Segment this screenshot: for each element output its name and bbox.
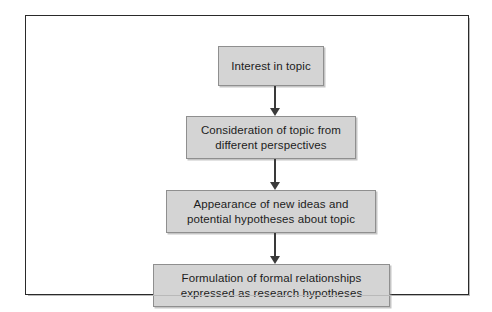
connector-line <box>274 159 276 182</box>
figure-frame-border: Interest in topic Consideration of topic… <box>25 15 469 295</box>
connector-box1-to-box2 <box>270 86 280 116</box>
flow-node-label: Appearance of new ideas and potential hy… <box>181 197 361 226</box>
flow-node-label: Consideration of topic from different pe… <box>195 123 347 152</box>
flow-node-formulation-of-formal-relationships: Formulation of formal relationships expr… <box>153 264 390 307</box>
connector-line <box>274 233 276 256</box>
down-arrow-icon <box>270 182 280 190</box>
flow-node-appearance-of-new-ideas: Appearance of new ideas and potential hy… <box>166 190 376 233</box>
connector-box3-to-box4 <box>270 233 280 264</box>
flow-node-label: Interest in topic <box>225 59 317 74</box>
connector-line <box>274 86 276 108</box>
down-arrow-icon <box>270 256 280 264</box>
down-arrow-icon <box>270 108 280 116</box>
flow-node-consideration-of-topic: Consideration of topic from different pe… <box>186 116 356 159</box>
flowchart-figure: Interest in topic Consideration of topic… <box>0 0 492 312</box>
connector-box2-to-box3 <box>270 159 280 190</box>
flow-node-interest-in-topic: Interest in topic <box>218 46 324 86</box>
flow-node-label: Formulation of formal relationships expr… <box>175 271 369 300</box>
